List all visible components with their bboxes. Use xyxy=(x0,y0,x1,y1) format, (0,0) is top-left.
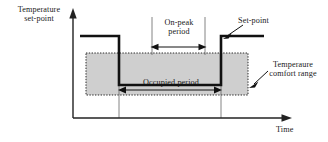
setpoint-callout-shaft xyxy=(227,25,243,36)
comfort-range-label: Temperaurecomfort range xyxy=(259,61,327,79)
occupied-period-label: Occupied period xyxy=(128,79,214,88)
temperature-setpoint-schedule-diagram: Temperatureset-point Time On-peakperiod … xyxy=(0,0,328,142)
set-point-label: Set-point xyxy=(238,17,290,26)
y-axis-label: Temperatureset-point xyxy=(8,6,70,24)
x-axis-arrowhead xyxy=(282,114,293,121)
y-axis-label-line2: set-point xyxy=(24,14,54,23)
comfort-range-band-fill xyxy=(86,53,248,95)
comfort-range-label-line2: comfort range xyxy=(269,69,316,78)
on-peak-period-label-line1: On-peak xyxy=(165,18,194,27)
comfort-callout-arrowhead xyxy=(249,82,258,88)
y-axis-arrowhead xyxy=(69,8,76,19)
x-axis-label: Time xyxy=(276,126,310,135)
y-axis-label-line1: Temperature xyxy=(18,5,60,14)
on-peak-period-label: On-peakperiod xyxy=(154,19,204,37)
on-peak-period-label-line2: period xyxy=(168,27,190,36)
comfort-range-label-line1: Temperaure xyxy=(273,60,313,69)
